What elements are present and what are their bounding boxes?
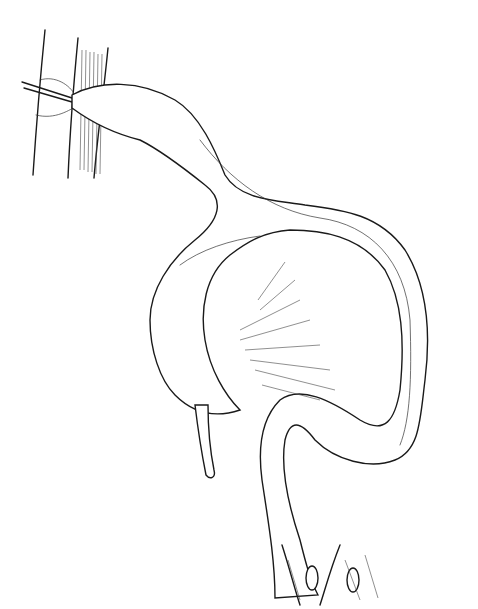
colon-illustration	[0, 0, 478, 609]
illustration-canvas	[0, 0, 478, 609]
colon	[72, 84, 428, 598]
catheter	[22, 82, 72, 102]
